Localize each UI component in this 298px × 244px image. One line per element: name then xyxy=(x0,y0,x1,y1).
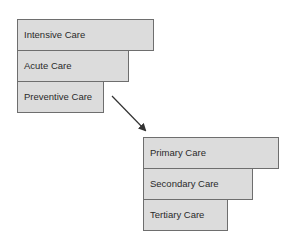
box-label: Tertiary Care xyxy=(150,209,204,220)
box-label: Primary Care xyxy=(150,147,206,158)
box-label: Secondary Care xyxy=(150,178,219,189)
box-primary-care: Primary Care xyxy=(143,137,279,169)
box-tertiary-care: Tertiary Care xyxy=(143,199,228,231)
box-secondary-care: Secondary Care xyxy=(143,168,253,200)
